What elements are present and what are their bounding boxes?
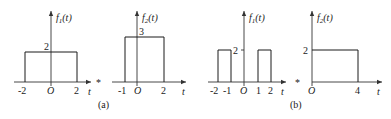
panel-b: f1(t) 2 -2 -1 O 1 2 t * f2(t) 2 O 4 t (b… xyxy=(208,11,382,111)
convolution-figure: f1(t) 2 -2 O 2 t * f2(t) 3 -1 O 2 t (a) xyxy=(0,0,391,119)
convolution-operator: * xyxy=(96,77,101,88)
amplitude-label: 2 xyxy=(44,41,49,52)
axis-var-label: t xyxy=(281,86,284,97)
amplitude-label: 3 xyxy=(139,26,144,37)
caption-b: (b) xyxy=(290,99,302,111)
convolution-operator: * xyxy=(295,77,300,88)
plot-b-f1: f1(t) 2 -2 -1 O 1 2 t xyxy=(208,11,286,97)
origin-label: O xyxy=(47,85,54,96)
signal-label: f2(t) xyxy=(142,12,158,25)
plot-b-f2: f2(t) 2 O 4 t xyxy=(303,11,382,97)
tick-label: 2 xyxy=(74,85,79,96)
plot-a-f1: f1(t) 2 -2 O 2 t xyxy=(14,11,91,97)
signal-label: f2(t) xyxy=(317,12,333,25)
axis-var-label: t xyxy=(182,86,185,97)
rect-pulse xyxy=(125,37,164,82)
tick-label: 2 xyxy=(268,85,273,96)
amplitude-label: 2 xyxy=(233,45,238,56)
panel-a: f1(t) 2 -2 O 2 t * f2(t) 3 -1 O 2 t (a) xyxy=(14,11,186,111)
tick-label: -1 xyxy=(118,85,126,96)
plot-a-f2: f2(t) 3 -1 O 2 t xyxy=(112,11,186,97)
rect-pulse xyxy=(218,50,231,82)
tick-label: -2 xyxy=(210,85,218,96)
tick-label: -1 xyxy=(223,85,231,96)
origin-label: O xyxy=(308,85,315,96)
tick-label: 1 xyxy=(256,85,261,96)
rect-pulse xyxy=(312,50,358,82)
origin-label: O xyxy=(240,85,247,96)
signal-label: f1(t) xyxy=(56,12,72,25)
origin-label: O xyxy=(134,85,141,96)
tick-label: 4 xyxy=(355,85,360,96)
axis-var-label: t xyxy=(377,86,380,97)
axis-var-label: t xyxy=(88,86,91,97)
tick-label: 2 xyxy=(161,85,166,96)
tick-label: -2 xyxy=(18,85,26,96)
caption-a: (a) xyxy=(98,99,109,111)
signal-label: f1(t) xyxy=(249,12,265,25)
amplitude-label: 2 xyxy=(303,45,308,56)
rect-pulse xyxy=(258,50,271,82)
